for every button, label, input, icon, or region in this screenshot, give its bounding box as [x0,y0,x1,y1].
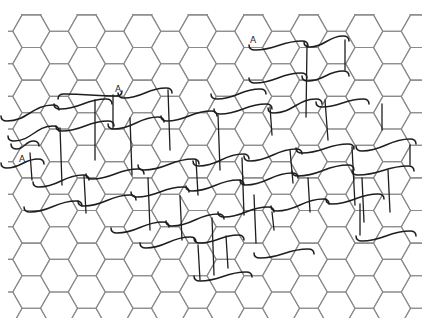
hex-cell [207,292,244,325]
s-curve-stroke [304,36,349,47]
hex-lattice-diagram: AAA [0,0,437,326]
hex-cell [96,31,133,64]
point-label-a: A [115,84,122,94]
hex-cell [263,0,300,31]
hex-cell [96,129,133,162]
hex-cell [290,15,327,48]
hex-cell [263,64,300,97]
hex-cell [401,145,437,178]
vertical-stroke [84,176,86,213]
hex-cell [152,259,189,292]
hex-cell [41,96,78,129]
hex-cell [0,227,22,260]
hex-cell [374,64,411,97]
hex-cell [346,48,383,81]
hex-cell [318,0,355,31]
hex-cell [13,276,50,309]
hex-cell [346,308,383,326]
hex-cell [207,31,244,64]
s-curve-stroke [268,99,322,113]
hex-cell [235,243,272,276]
hex-cell [318,31,355,64]
hex-cell [318,259,355,292]
hex-cell [96,292,133,325]
hex-cell [13,308,50,326]
s-curve-stroke [1,105,59,121]
hex-cell [152,0,189,31]
hex-cell [68,145,105,178]
s-curve-stroke [194,235,244,243]
hex-cell [207,96,244,129]
hex-cell [68,308,105,326]
hex-cell [0,194,22,227]
s-curve-stroke [186,180,244,191]
hex-cell [124,80,161,113]
hex-cell [179,308,216,326]
hex-cell [401,308,437,326]
hex-cell [235,0,272,15]
hex-cell [401,0,437,15]
hex-cell [124,15,161,48]
hex-cell [152,31,189,64]
hex-cell [152,96,189,129]
hex-cell [152,292,189,325]
hex-cell [346,243,383,276]
hex-cell [290,0,327,15]
hex-cell [374,194,411,227]
hex-cell [41,259,78,292]
hex-cell [263,259,300,292]
hex-cell [68,15,105,48]
hex-cell [68,80,105,113]
hex-cell [68,48,105,81]
hex-cell [0,292,22,325]
s-curve-stroke [244,149,302,161]
hex-cell [263,162,300,195]
s-curve-stroke [138,159,199,170]
hex-cell [13,243,50,276]
hex-cell [96,259,133,292]
hex-cell [152,64,189,97]
hex-cell [346,276,383,309]
s-curve-stroke [271,199,329,211]
hex-cell [346,0,383,15]
hex-cell [401,178,437,211]
hex-cell [401,113,437,146]
diagram-canvas: AAA [0,0,437,326]
hex-cell [290,276,327,309]
vertical-stroke [168,90,170,150]
hex-cell [124,48,161,81]
hex-cell [401,211,437,244]
hex-cell [68,211,105,244]
hex-cell [263,292,300,325]
hex-cell [318,227,355,260]
hex-cell [124,308,161,326]
hex-cell [68,276,105,309]
hex-cell [318,292,355,325]
vertical-stroke [148,178,150,230]
hex-cell [41,227,78,260]
vertical-stroke [180,196,182,240]
hex-cell [152,227,189,260]
s-curve-stroke [214,104,272,114]
hex-cell [207,64,244,97]
s-curve-stroke [193,154,249,166]
hex-cell [374,96,411,129]
hex-cell [41,194,78,227]
vertical-stroke [30,153,32,180]
hex-cell [235,211,272,244]
hex-cell [207,0,244,31]
vertical-stroke [254,195,256,243]
hex-cell [13,0,50,15]
hex-cell [179,0,216,15]
hex-cell [41,129,78,162]
hex-cell [179,48,216,81]
hex-cell [13,80,50,113]
vertical-stroke [306,45,307,117]
hex-cell [346,113,383,146]
hex-cell [124,145,161,178]
hex-cell [124,0,161,15]
hex-cell [0,0,22,31]
vertical-stroke [226,236,228,268]
hex-cell [13,48,50,81]
hex-cell [235,113,272,146]
